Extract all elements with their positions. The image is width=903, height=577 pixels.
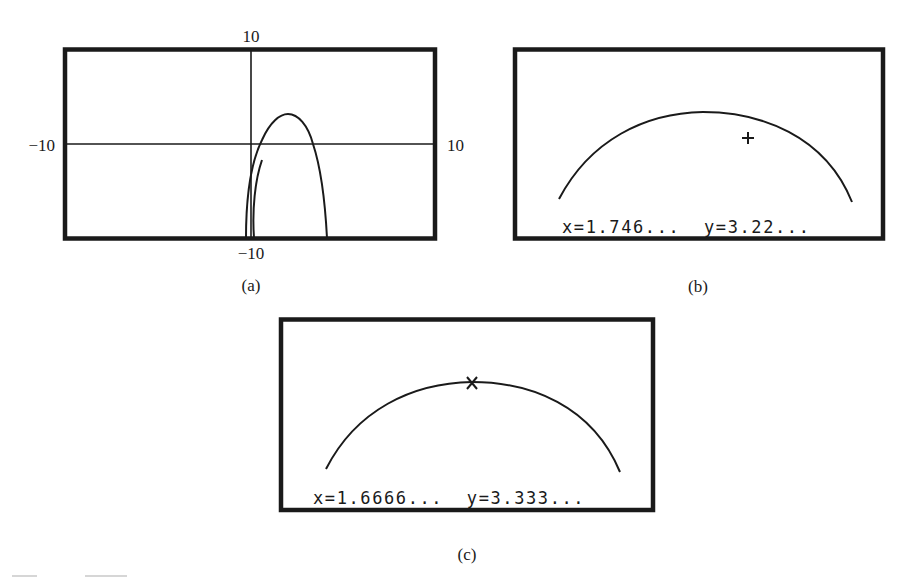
plus-cursor-icon — [742, 132, 754, 144]
tick-label-top: 10 — [243, 27, 260, 46]
panel-a: 10 −10 −10 10 (a) — [28, 27, 464, 295]
curve-c — [326, 382, 620, 472]
tick-label-bottom: −10 — [238, 244, 265, 263]
panel-c: x=1.6666... y=3.333... (c) — [281, 320, 653, 565]
cursor-readout-b: x=1.746... y=3.22... — [562, 217, 811, 237]
panel-b: x=1.746... y=3.22... (b) — [515, 50, 883, 297]
curve-b — [559, 112, 852, 202]
cursor-readout-c: x=1.6666... y=3.333... — [313, 488, 585, 508]
panel-a-caption: (a) — [242, 276, 261, 295]
curve-a-inner — [253, 160, 262, 238]
tick-label-right: 10 — [447, 136, 464, 155]
panel-b-frame — [515, 50, 883, 239]
panel-c-caption: (c) — [458, 545, 477, 564]
panel-c-frame — [281, 320, 653, 511]
figure: 10 −10 −10 10 (a) x=1.746... y=3.22... (… — [0, 0, 903, 577]
panel-b-caption: (b) — [688, 277, 708, 296]
tick-label-left: −10 — [28, 136, 55, 155]
